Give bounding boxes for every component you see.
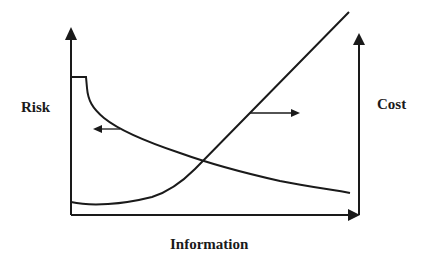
- cost-curve: [71, 12, 349, 204]
- risk-cost-diagram: [0, 0, 433, 267]
- left-arrow-icon: [93, 125, 102, 133]
- bottom-axis: [71, 209, 360, 221]
- risk-axis-label: Risk: [21, 99, 50, 116]
- cost-axis-label: Cost: [377, 96, 406, 113]
- up-arrow-icon: [65, 27, 77, 40]
- right-arrow-icon: [291, 109, 300, 117]
- up-arrow-icon: [353, 33, 365, 45]
- right-axis: [353, 33, 365, 215]
- risk-curve: [71, 77, 350, 193]
- cost-axis-pointer: [250, 109, 300, 117]
- left-axis: [65, 27, 77, 215]
- information-axis-label: Information: [170, 236, 248, 253]
